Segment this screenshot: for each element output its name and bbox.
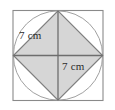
dimension-label-upper-left: 7 cm bbox=[19, 30, 42, 41]
geometry-diagram bbox=[0, 0, 115, 110]
geometry-figure: 7 cm 7 cm bbox=[0, 0, 115, 110]
dimension-label-lower-right: 7 cm bbox=[62, 61, 85, 72]
